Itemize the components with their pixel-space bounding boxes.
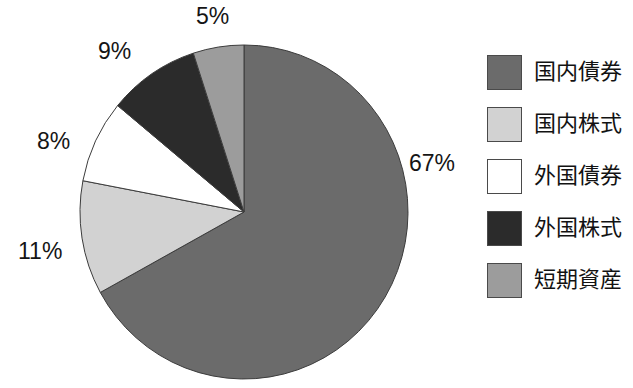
pie-chart-svg [0, 0, 478, 388]
legend-swatch-domestic-bonds [487, 55, 522, 90]
slice-data-label-short-term-assets: 5% [196, 5, 229, 28]
legend-label-foreign-stocks: 外国株式 [534, 217, 622, 239]
legend-item-domestic-bonds: 国内債券 [487, 54, 633, 90]
legend-swatch-short-term-assets [487, 263, 522, 298]
slice-data-label-foreign-stocks: 9% [98, 40, 131, 63]
legend-swatch-foreign-bonds [487, 159, 522, 194]
legend-item-foreign-stocks: 外国株式 [487, 210, 633, 246]
legend-swatch-foreign-stocks [487, 211, 522, 246]
chart-legend: 国内債券 国内株式 外国債券 外国株式 短期資産 [487, 54, 633, 322]
legend-label-domestic-bonds: 国内債券 [534, 61, 622, 83]
slice-data-label-domestic-stocks: 11% [18, 240, 62, 263]
legend-label-foreign-bonds: 外国債券 [534, 165, 622, 187]
legend-item-foreign-bonds: 外国債券 [487, 158, 633, 194]
pie-chart-area: 67% 11% 8% 9% 5% [0, 0, 478, 388]
legend-item-short-term-assets: 短期資産 [487, 262, 633, 298]
slice-data-label-domestic-bonds: 67% [409, 152, 455, 175]
legend-item-domestic-stocks: 国内株式 [487, 106, 633, 142]
pie-slice-group [80, 45, 408, 379]
slice-data-label-foreign-bonds: 8% [37, 130, 70, 153]
legend-label-domestic-stocks: 国内株式 [534, 113, 622, 135]
legend-label-short-term-assets: 短期資産 [534, 269, 622, 291]
chart-page: 67% 11% 8% 9% 5% 国内債券 国内株式 外国債券 外国株式 短期資… [0, 0, 633, 388]
legend-swatch-domestic-stocks [487, 107, 522, 142]
